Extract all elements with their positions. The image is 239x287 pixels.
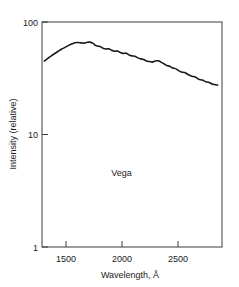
x-tick-label-2500: 2500 [168, 254, 188, 264]
spectrum-curve [44, 42, 217, 85]
line-chart: 100 10 1 1500 2000 2500 Wavelength, Å In… [0, 0, 239, 287]
x-tick-label-1500: 1500 [56, 254, 76, 264]
chart-figure: 100 10 1 1500 2000 2500 Wavelength, Å In… [0, 0, 239, 287]
y-tick-label-100: 100 [23, 18, 38, 28]
x-axis-title: Wavelength, Å [101, 270, 159, 280]
x-axis-ticks [66, 241, 178, 247]
series-annotation-vega: Vega [111, 168, 132, 178]
y-tick-label-10: 10 [28, 130, 38, 140]
y-tick-label-1: 1 [33, 243, 38, 253]
y-axis-title: Intensity (relative) [8, 98, 18, 169]
y-axis-ticks [42, 22, 48, 247]
x-tick-label-2000: 2000 [112, 254, 132, 264]
